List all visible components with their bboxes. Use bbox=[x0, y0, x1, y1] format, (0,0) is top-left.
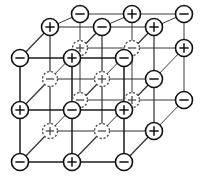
positive-ion bbox=[124, 6, 141, 23]
positive-ion bbox=[43, 124, 58, 139]
negative-ion bbox=[116, 50, 133, 67]
positive-ion bbox=[95, 72, 110, 87]
negative-ion bbox=[146, 71, 163, 88]
positive-ion bbox=[116, 102, 133, 119]
negative-ion bbox=[176, 6, 193, 23]
positive-ion bbox=[64, 154, 81, 171]
positive-ion bbox=[64, 50, 81, 67]
negative-ion bbox=[176, 92, 193, 109]
positive-ion bbox=[12, 102, 29, 119]
negative-ion bbox=[64, 102, 81, 119]
positive-ion bbox=[146, 19, 163, 36]
negative-ion bbox=[12, 50, 29, 67]
negative-ion bbox=[116, 154, 133, 171]
negative-ion bbox=[12, 154, 29, 171]
negative-ion bbox=[72, 6, 89, 23]
positive-ion bbox=[42, 19, 59, 36]
positive-ion bbox=[176, 40, 193, 57]
negative-ion bbox=[95, 124, 110, 139]
ionic-lattice-figure bbox=[0, 0, 215, 179]
negative-ion bbox=[94, 19, 111, 36]
positive-ion bbox=[146, 123, 163, 140]
negative-ion bbox=[43, 72, 58, 87]
lattice-diagram bbox=[0, 0, 215, 179]
